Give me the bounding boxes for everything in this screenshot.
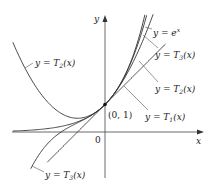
label-t3-upper: y = T3(x) bbox=[154, 50, 196, 61]
y-axis-label: y bbox=[93, 14, 100, 24]
leader-t2-left bbox=[25, 63, 33, 68]
axes bbox=[12, 15, 204, 178]
point-label: (0, 1) bbox=[108, 110, 132, 120]
label-exp: y = ex bbox=[152, 26, 181, 38]
label-t3-lower: y = T3(x) bbox=[44, 170, 86, 181]
point-0-1-marker bbox=[103, 103, 107, 107]
leader-t3-lower bbox=[32, 166, 44, 172]
taylor-polynomials-graph: y x 0 (0, 1) y = ex y = T3(x) y = T2(x) … bbox=[0, 0, 211, 188]
x-axis-arrow-icon bbox=[197, 130, 204, 135]
curve-t2 bbox=[13, 14, 153, 118]
label-t1: y = T1(x) bbox=[144, 112, 186, 123]
leader-t2-right bbox=[139, 61, 158, 82]
label-t2-left: y = T2(x) bbox=[34, 58, 76, 69]
leader-t1 bbox=[124, 86, 148, 110]
labels: y x 0 (0, 1) y = ex y = T3(x) y = T2(x) … bbox=[34, 14, 201, 181]
label-t2-right: y = T2(x) bbox=[154, 84, 196, 95]
x-axis-label: x bbox=[196, 136, 201, 146]
curve-t3 bbox=[31, 15, 147, 168]
origin-label: 0 bbox=[95, 135, 101, 145]
curves bbox=[13, 14, 166, 168]
y-axis-arrow-icon bbox=[103, 15, 108, 22]
